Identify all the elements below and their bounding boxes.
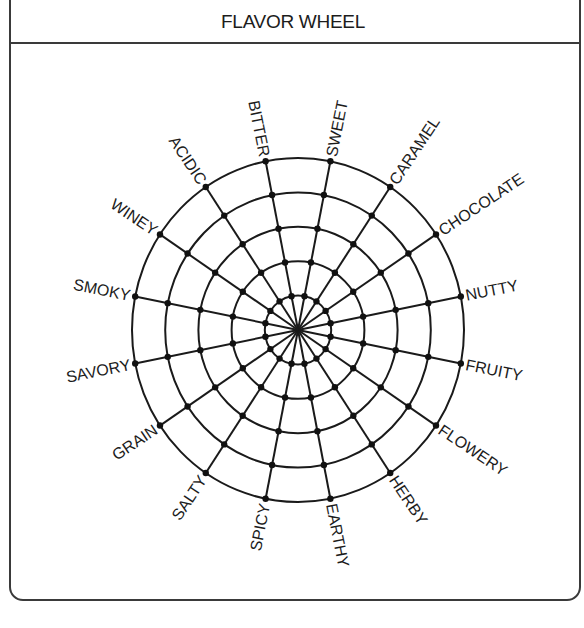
scale-point[interactable]: [321, 462, 327, 468]
scale-point[interactable]: [308, 394, 314, 400]
scale-point[interactable]: [360, 313, 366, 319]
scale-point[interactable]: [157, 231, 163, 237]
scale-point[interactable]: [425, 300, 431, 306]
scale-point[interactable]: [282, 394, 288, 400]
scale-point[interactable]: [276, 355, 282, 361]
scale-point[interactable]: [360, 340, 366, 346]
scale-point[interactable]: [327, 495, 333, 501]
label-caramel: CARAMEL: [386, 114, 443, 188]
scale-point[interactable]: [327, 320, 333, 326]
flavor-wheel-diagram: BITTERSWEETCARAMELCHOCOLATENUTTYFRUITYFL…: [0, 0, 584, 628]
scale-point[interactable]: [165, 300, 171, 306]
scale-point[interactable]: [387, 184, 393, 190]
scale-point[interactable]: [369, 441, 375, 447]
scale-point[interactable]: [288, 361, 294, 367]
scale-point[interactable]: [433, 422, 439, 428]
label-smoky: SMOKY: [72, 276, 132, 304]
scale-point[interactable]: [350, 241, 356, 247]
scale-point[interactable]: [332, 270, 338, 276]
scale-point[interactable]: [301, 293, 307, 299]
scale-point[interactable]: [197, 347, 203, 353]
scale-point[interactable]: [267, 308, 273, 314]
scale-point[interactable]: [301, 361, 307, 367]
scale-point[interactable]: [184, 250, 190, 256]
label-nutty: NUTTY: [464, 277, 520, 304]
label-grain: GRAIN: [109, 421, 161, 463]
scale-point[interactable]: [132, 293, 138, 299]
scale-point[interactable]: [378, 269, 384, 275]
scale-point[interactable]: [458, 360, 464, 366]
scale-point[interactable]: [262, 158, 268, 164]
label-salty: SALTY: [168, 472, 210, 523]
label-herby: HERBY: [386, 472, 431, 528]
scale-point[interactable]: [258, 384, 264, 390]
scale-point[interactable]: [288, 293, 294, 299]
scale-point[interactable]: [458, 293, 464, 299]
scale-point[interactable]: [313, 298, 319, 304]
scale-point[interactable]: [433, 231, 439, 237]
scale-point[interactable]: [321, 192, 327, 198]
scale-point[interactable]: [369, 212, 375, 218]
scale-point[interactable]: [184, 403, 190, 409]
scale-point[interactable]: [314, 226, 320, 232]
scale-point[interactable]: [350, 365, 356, 371]
scale-point[interactable]: [322, 346, 328, 352]
scale-point[interactable]: [350, 413, 356, 419]
scale-point[interactable]: [269, 192, 275, 198]
scale-point[interactable]: [378, 384, 384, 390]
scale-point[interactable]: [276, 298, 282, 304]
scale-point[interactable]: [230, 313, 236, 319]
scale-point[interactable]: [262, 320, 268, 326]
scale-point[interactable]: [240, 289, 246, 295]
label-sweet: SWEET: [323, 99, 351, 158]
scale-point[interactable]: [392, 307, 398, 313]
scale-point[interactable]: [157, 422, 163, 428]
scale-point[interactable]: [203, 184, 209, 190]
scale-point[interactable]: [392, 347, 398, 353]
scale-point[interactable]: [212, 384, 218, 390]
scale-point[interactable]: [258, 270, 264, 276]
scale-point[interactable]: [239, 413, 245, 419]
scale-point[interactable]: [405, 403, 411, 409]
scale-point[interactable]: [221, 441, 227, 447]
scale-point[interactable]: [327, 158, 333, 164]
label-spicy: SPICY: [247, 502, 273, 553]
scale-point[interactable]: [275, 226, 281, 232]
scale-point[interactable]: [262, 495, 268, 501]
scale-point[interactable]: [327, 334, 333, 340]
scale-point[interactable]: [165, 354, 171, 360]
wheel-spokes: [135, 161, 461, 498]
scale-point[interactable]: [269, 462, 275, 468]
scale-point[interactable]: [425, 354, 431, 360]
scale-point[interactable]: [230, 340, 236, 346]
label-acidic: ACIDIC: [166, 133, 210, 188]
scale-point[interactable]: [221, 212, 227, 218]
scale-point[interactable]: [240, 365, 246, 371]
label-earthy: EARTHY: [323, 502, 352, 569]
scale-point[interactable]: [322, 308, 328, 314]
scale-point[interactable]: [212, 269, 218, 275]
scale-point[interactable]: [132, 360, 138, 366]
label-chocolate: CHOCOLATE: [435, 170, 526, 239]
label-fruity: FRUITY: [464, 356, 524, 384]
scale-point[interactable]: [275, 428, 281, 434]
scale-point[interactable]: [262, 334, 268, 340]
scale-point[interactable]: [332, 384, 338, 390]
scale-point[interactable]: [267, 346, 273, 352]
scale-point[interactable]: [387, 470, 393, 476]
scale-point[interactable]: [239, 241, 245, 247]
label-savory: SAVORY: [65, 356, 133, 385]
label-flowery: FLOWERY: [435, 421, 510, 479]
scale-point[interactable]: [282, 259, 288, 265]
scale-point[interactable]: [203, 470, 209, 476]
label-bitter: BITTER: [245, 99, 273, 158]
label-winey: WINEY: [107, 195, 160, 238]
scale-point[interactable]: [308, 259, 314, 265]
scale-point[interactable]: [197, 307, 203, 313]
scale-point[interactable]: [405, 250, 411, 256]
scale-point[interactable]: [314, 428, 320, 434]
scale-point[interactable]: [350, 289, 356, 295]
scale-point[interactable]: [313, 355, 319, 361]
